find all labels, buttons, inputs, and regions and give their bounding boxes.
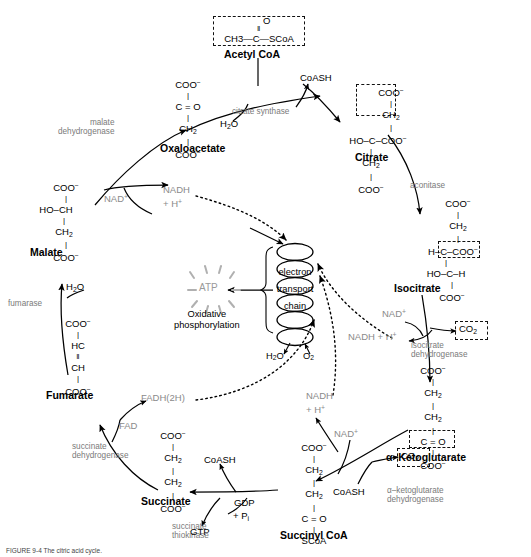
enzyme-isocitrate-dehydrogenase-line1: isocitrate — [411, 341, 467, 350]
enzyme-citrate-synthase: citrate synthase — [232, 108, 289, 117]
oxaloacetate-label: Oxaloacetate — [160, 143, 225, 154]
nadh-malate-line2: + H+ — [163, 196, 190, 210]
pi-label: + Pi — [233, 511, 249, 522]
enzyme-isocitrate-dehydrogenase-line2: dehydrogenase — [411, 350, 467, 359]
enzyme-succinate-dehydrogenase-line2: dehydrogenase — [72, 451, 128, 460]
acetyl-coa-formula: CH3—C—SCoA — [224, 33, 294, 44]
co2-alpha-kg: CO2 — [401, 451, 419, 462]
coash-alpha-kg: CoASH — [333, 487, 365, 497]
nad-plus-malate-dehydrogenase: NAD+ — [104, 193, 128, 204]
h2o-fumarase: H2O — [66, 282, 84, 293]
nadh-h-isocitrate-dehydrogenase: NADH + H+ — [348, 331, 397, 342]
gtp-label: GTP — [190, 527, 210, 537]
succinate-label: Succinate — [141, 496, 191, 507]
oxphos-line1: Oxidative — [174, 309, 240, 320]
etc-line3: chain — [271, 298, 319, 315]
citrate-structure: COO− | CH2 | HO–C–COO− | CH2 | COO− — [330, 85, 426, 195]
enzyme-malate-dehydrogenase: malate dehydrogenase — [58, 118, 114, 137]
enzyme-alpha-kg-dehydrogenase-line2: dehydrogenase — [387, 495, 444, 504]
acetyl-coa-label: Acetyl CoA — [224, 49, 280, 60]
nadh-malate-line1: NADH — [163, 184, 190, 196]
nadh-h-malate-dehydrogenase: NADH + H+ — [163, 184, 190, 210]
enzyme-succinate-dehydrogenase: succinate dehydrogenase — [72, 442, 128, 461]
enzyme-alpha-ketoglutarate-dehydrogenase: α–ketoglutarate dehydrogenase — [387, 486, 444, 505]
h2o-etc: H2O — [266, 352, 284, 362]
o2-etc: O2 — [303, 352, 314, 362]
oxphos-line2: phosphorylation — [174, 320, 240, 331]
enzyme-aconitase: aconitase — [410, 182, 445, 191]
figure-caption: FIGURE 9-4 The citric acid cycle. — [6, 548, 102, 555]
citrate-label: Citrate — [355, 152, 388, 163]
nadh-h-alpha-kg-dehydrogenase: NADH + H+ — [306, 390, 333, 416]
fumarate-label: Fumarate — [46, 390, 93, 401]
nadh-akg-line1: NADH — [306, 390, 333, 402]
citric-acid-cycle-figure: O ‖ CH3—C—SCoA Acetyl CoA COO− | C = O |… — [0, 0, 531, 557]
co2-isocitrate: CO2 — [459, 324, 477, 335]
enzyme-alpha-kg-dehydrogenase-line1: α–ketoglutarate — [387, 486, 444, 495]
atp-label: ATP — [199, 283, 218, 294]
succinyl-coa-label: Succinyl CoA — [280, 530, 348, 541]
enzyme-malate-dehydrogenase-line2: dehydrogenase — [58, 127, 114, 136]
enzyme-fumarase: fumarase — [8, 300, 42, 309]
coash-citrate-synthase: CoASH — [300, 73, 332, 83]
etc-line1: electron — [271, 264, 319, 281]
enzyme-malate-dehydrogenase-line1: malate — [58, 118, 114, 127]
nad-plus-isocitrate-dehydrogenase: NAD+ — [382, 308, 406, 319]
oxidative-phosphorylation-label: Oxidative phosphorylation — [174, 309, 240, 331]
h2o-citrate-synthase: H2O — [220, 119, 238, 130]
gdp-label: GDP — [234, 498, 255, 508]
malate-label: Malate — [30, 247, 63, 258]
electron-transport-chain-label: electron transport chain — [271, 264, 319, 315]
etc-line2: transport — [271, 281, 319, 298]
fad-label: FAD — [119, 421, 137, 431]
acetyl-coa-structure: O ‖ CH3—C—SCoA — [213, 17, 305, 44]
enzyme-isocitrate-dehydrogenase: isocitrate dehydrogenase — [411, 341, 467, 360]
enzyme-succinate-dehydrogenase-line1: succinate — [72, 442, 128, 451]
fadh2h-label: FADH(2H) — [141, 393, 185, 403]
nad-plus-alpha-kg-dehydrogenase: NAD+ — [334, 428, 358, 439]
nadh-akg-line2: + H+ — [306, 402, 333, 416]
fumarate-structure: COO− | HC ‖ CH | COO− — [50, 316, 106, 397]
isocitrate-label: Isocitrate — [394, 283, 441, 294]
coash-succinate-thiokinase: CoASH — [204, 455, 236, 465]
